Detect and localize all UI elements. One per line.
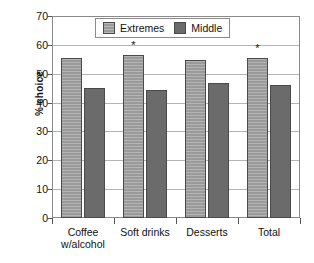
y-tick-label: 70 [0,10,48,22]
bar-extremes [123,55,144,218]
legend-item-middle: Middle [174,22,222,34]
bar-middle [84,88,105,218]
bar-extremes [61,58,82,218]
bar-group: * [247,16,291,218]
legend-item-extremes: Extremes [103,22,164,34]
bars-layer: ** [52,16,300,218]
legend: Extremes Middle [95,18,230,38]
bar-extremes [247,58,268,218]
y-tick-label: 10 [0,183,48,195]
x-tick-mark [176,218,177,224]
x-tick-mark [52,218,53,224]
bar-middle [270,85,291,218]
x-tick-mark [238,218,239,224]
significance-asterisk: * [255,43,259,54]
legend-label: Middle [191,22,222,34]
y-tick-label: 20 [0,154,48,166]
bar-chart: % choice 010203040506070 ** Coffeew/alco… [0,0,314,263]
y-tick-label: 60 [0,39,48,51]
bar-extremes [185,60,206,218]
y-tick-label: 40 [0,97,48,109]
y-tick-label: 50 [0,68,48,80]
legend-swatch-icon [174,22,186,34]
y-tick-label: 0 [0,212,48,224]
bar-middle [146,90,167,218]
bar-group [185,16,229,218]
x-tick-label: Total [227,226,311,238]
legend-swatch-icon [103,22,115,34]
x-tick-mark [114,218,115,224]
bar-middle [208,83,229,218]
bar-group [61,16,105,218]
significance-asterisk: * [131,40,135,51]
x-tick-label-line: Total [227,226,311,238]
legend-label: Extremes [120,22,164,34]
x-tick-mark [300,218,301,224]
y-tick-label: 30 [0,125,48,137]
x-tick-label-line: w/alcohol [41,238,125,250]
bar-group: * [123,16,167,218]
